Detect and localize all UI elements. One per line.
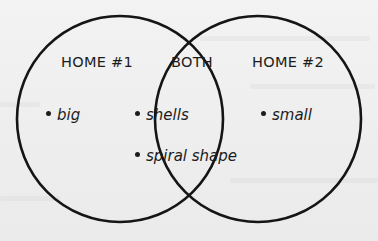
- list-item-small: small: [261, 108, 312, 123]
- set-label-home-1: HOME #1: [61, 55, 133, 70]
- list-item-spiral-shape: spiral shape: [135, 149, 237, 164]
- list-item-big: big: [46, 108, 80, 123]
- item-text: spiral shape: [146, 147, 237, 165]
- item-text: shells: [146, 106, 189, 124]
- bullet-icon: [135, 152, 140, 157]
- set-label-both: BOTH: [171, 55, 213, 70]
- list-item-shells: shells: [135, 108, 189, 123]
- bullet-icon: [135, 111, 140, 116]
- bullet-icon: [261, 111, 266, 116]
- item-text: big: [57, 106, 80, 124]
- bullet-icon: [46, 111, 51, 116]
- set-label-home-2: HOME #2: [252, 55, 324, 70]
- item-text: small: [272, 106, 312, 124]
